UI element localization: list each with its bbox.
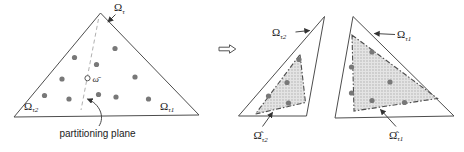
centroid-label: ω̄ xyxy=(93,74,102,84)
subdomain2-hull xyxy=(256,55,306,115)
particle-dot xyxy=(369,49,374,54)
particle-dot xyxy=(369,98,374,103)
particle-dot xyxy=(387,79,392,84)
subdomain2-hull-label-arrow xyxy=(263,113,273,127)
subdomain1-label-arrow xyxy=(375,34,396,35)
centroid-marker xyxy=(85,76,90,81)
particle-dot xyxy=(266,93,271,98)
particle-dot xyxy=(402,100,407,105)
parent-label-arrow xyxy=(108,15,116,23)
parent-element-diagram: ω̄ Ωτ Ωτ2 Ωτ1 partitioning plane xyxy=(14,1,199,139)
subdomain1-hull-label-arrow xyxy=(381,110,397,127)
particle-dot xyxy=(94,62,99,67)
figure-canvas: ω̄ Ωτ Ωτ2 Ωτ1 partitioning plane Ωτ2 Ω̂τ… xyxy=(0,0,464,152)
particle-dot xyxy=(42,93,47,98)
particle-dot xyxy=(286,100,291,105)
subdomain2-hull-label: Ω̂τ2 xyxy=(254,129,269,144)
parent-triangle xyxy=(14,13,199,117)
particle-dot xyxy=(296,57,301,62)
particle-dot xyxy=(59,76,64,81)
particle-dot xyxy=(349,64,354,69)
subdomain1-label: Ωτ1 xyxy=(397,28,411,43)
particle-dot xyxy=(132,74,137,79)
subdomain2-label-arrow xyxy=(296,31,310,33)
particle-dot xyxy=(66,96,71,101)
annotation-partitioning-plane: partitioning plane xyxy=(59,128,136,139)
particle-dot xyxy=(113,94,118,99)
particle-dot xyxy=(146,96,151,101)
partitioning-figure: ω̄ Ωτ Ωτ2 Ωτ1 partitioning plane Ωτ2 Ω̂τ… xyxy=(0,0,464,152)
subdomain1-hull xyxy=(352,35,438,111)
particle-dot xyxy=(349,90,354,95)
left-subdomain-label: Ωτ2 xyxy=(24,100,39,115)
subdomain2-label: Ωτ2 xyxy=(272,26,287,41)
annotation-arrow xyxy=(88,99,102,126)
subdomain1-diagram: Ωτ1 Ω̂τ1 xyxy=(335,17,454,144)
parent-domain-label: Ωτ xyxy=(114,1,125,16)
particle-dot xyxy=(72,55,77,60)
particle-dot xyxy=(96,92,101,97)
right-subdomain-label: Ωτ1 xyxy=(160,100,174,115)
double-right-arrow-icon xyxy=(219,45,236,53)
particle-dot xyxy=(284,80,289,85)
subdomain2-diagram: Ωτ2 Ω̂τ2 xyxy=(239,17,325,144)
subdomain1-hull-label: Ω̂τ1 xyxy=(389,129,403,144)
particle-dot xyxy=(112,46,117,51)
